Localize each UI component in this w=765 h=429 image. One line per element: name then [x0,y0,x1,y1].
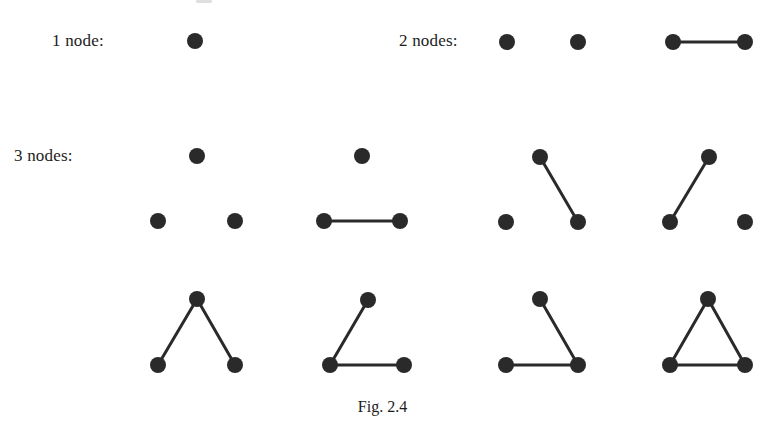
graph-node [316,213,332,229]
graph-node [392,213,408,229]
graph-edge [670,157,709,222]
edges-layer [158,42,745,365]
graph-node [396,357,412,373]
graph-node [360,292,376,308]
graph-node [570,357,586,373]
nodes-layer [150,33,753,373]
graph-edge [158,299,197,365]
graph-node [662,357,678,373]
graph-node [354,148,370,164]
graph-node [570,214,586,230]
graph-node [665,34,681,50]
graph-node [227,357,243,373]
graph-node [570,34,586,50]
graph-node [532,149,548,165]
graph-node [187,33,203,49]
graph-node [498,357,514,373]
graph-edge [540,157,578,222]
graph-node [498,214,514,230]
graph-edge [330,300,368,365]
graph-node [150,357,166,373]
graph-diagram-canvas [0,0,765,429]
figure-caption: Fig. 2.4 [0,398,765,416]
graph-node [322,357,338,373]
graph-node [499,34,515,50]
graph-node [662,214,678,230]
graph-node [737,34,753,50]
graph-edge [708,299,745,365]
graph-node [227,213,243,229]
graph-edge [670,299,708,365]
graph-node [189,291,205,307]
graph-node [189,148,205,164]
graph-node [532,291,548,307]
graph-node [150,213,166,229]
graph-edge [540,299,578,365]
graph-node [700,291,716,307]
graph-edge [197,299,235,365]
graph-node [737,357,753,373]
graph-node [701,149,717,165]
graph-node [737,214,753,230]
figure-page: 1 node: 2 nodes: 3 nodes: Fig. 2.4 [0,0,765,429]
